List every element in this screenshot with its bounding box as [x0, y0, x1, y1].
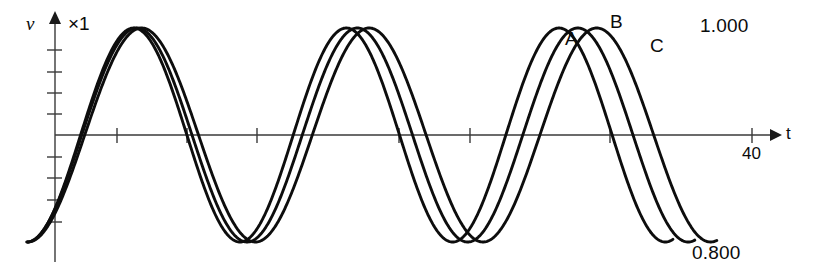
- curve-label-b: B: [610, 12, 623, 31]
- waveform-figure: v ×1 t 40 A B C 1.000 0.800: [0, 0, 817, 277]
- curve-label-a: A: [565, 29, 578, 48]
- curve-label-c: C: [650, 36, 664, 55]
- y-axis-scale-label: ×1: [68, 14, 90, 33]
- x-axis-arrow-icon: [770, 129, 782, 141]
- x-axis: [55, 128, 782, 143]
- x-axis-tick-label-40: 40: [742, 145, 761, 162]
- plot-canvas: [0, 0, 817, 277]
- y-axis-label: v: [26, 14, 34, 33]
- bottom-right-value: 0.800: [692, 243, 741, 262]
- x-axis-label: t: [786, 125, 791, 142]
- y-axis-arrow-icon: [49, 11, 61, 24]
- top-right-value: 1.000: [700, 16, 749, 35]
